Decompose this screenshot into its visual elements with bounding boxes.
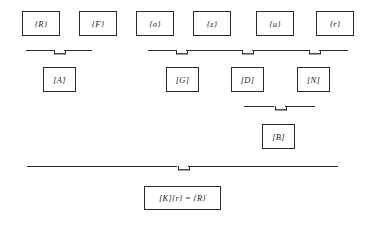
matrix-D-box: [D]: [231, 67, 264, 92]
vector-F-box: {F}: [79, 11, 117, 36]
brace-A-B-to-equation: [27, 166, 338, 172]
brace-bar-left: [244, 106, 274, 107]
brace-bar-left: [148, 50, 176, 51]
brace-R-F-to-A: [26, 50, 92, 56]
equation-label: [K]{r} = {R}: [159, 193, 206, 203]
vector-sigma-label: {σ}: [149, 19, 161, 29]
matrix-G-box: [G]: [166, 67, 199, 92]
vector-R-box: {R}: [22, 11, 60, 36]
brace-sigma-epsilon-to-G: [148, 50, 214, 56]
matrix-N-label: [N]: [307, 75, 320, 85]
vector-u-label: {u}: [269, 19, 281, 29]
brace-u-r-to-N: [280, 50, 348, 56]
vector-epsilon-box: {ε}: [193, 11, 231, 36]
matrix-relationship-diagram: {R} {F} {σ} {ε} {u} {r} [A] [G]: [0, 0, 365, 225]
matrix-G-label: [G]: [176, 75, 189, 85]
brace-bar-right: [252, 50, 280, 51]
brace-bar-right: [285, 106, 315, 107]
vector-r-label: {r}: [330, 19, 341, 29]
brace-bar-right: [188, 166, 338, 167]
matrix-A-label: [A]: [53, 75, 65, 85]
brace-bar-right: [186, 50, 214, 51]
matrix-B-label: [B]: [272, 132, 284, 142]
matrix-D-label: [D]: [241, 75, 254, 85]
brace-bar-right: [319, 50, 348, 51]
matrix-B-box: [B]: [262, 124, 295, 149]
vector-epsilon-label: {ε}: [207, 19, 218, 29]
vector-R-label: {R}: [35, 19, 48, 29]
matrix-N-box: [N]: [297, 67, 330, 92]
matrix-A-box: [A]: [43, 67, 76, 92]
brace-epsilon-u-to-D: [214, 50, 280, 56]
brace-D-N-to-B: [244, 106, 315, 112]
vector-sigma-box: {σ}: [136, 11, 174, 36]
brace-bar-left: [26, 50, 54, 51]
brace-bar-left: [280, 50, 309, 51]
vector-u-box: {u}: [256, 11, 294, 36]
vector-r-box: {r}: [316, 11, 354, 36]
equation-box: [K]{r} = {R}: [144, 186, 221, 210]
vector-F-label: {F}: [92, 19, 105, 29]
brace-bar-left: [27, 166, 177, 167]
brace-bar-left: [214, 50, 242, 51]
brace-bar-right: [64, 50, 92, 51]
